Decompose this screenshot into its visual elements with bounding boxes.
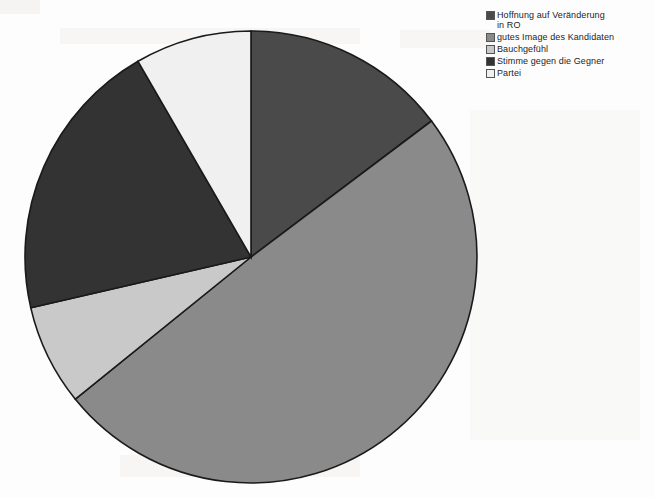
legend-swatch-partei xyxy=(486,69,495,78)
legend-swatch-hoffnung xyxy=(486,11,495,20)
legend-swatch-bauchgefuehl xyxy=(486,45,495,54)
legend-item-label: Hoffnung auf Veränderung in RO xyxy=(497,10,605,30)
legend-item-label: Stimme gegen die Gegner xyxy=(497,56,604,66)
pie-chart-svg xyxy=(23,29,479,485)
legend-item: gutes Image des Kandidaten xyxy=(486,32,652,42)
legend-item-label: gutes Image des Kandidaten xyxy=(497,32,614,42)
legend-swatch-image xyxy=(486,33,495,42)
pie-chart xyxy=(23,29,479,485)
chart-legend: Hoffnung auf Veränderung in ROgutes Imag… xyxy=(486,10,652,80)
legend-item-label: Bauchgefühl xyxy=(497,44,548,54)
scan-artifact xyxy=(470,110,640,440)
figure-canvas: Hoffnung auf Veränderung in ROgutes Imag… xyxy=(0,0,654,497)
legend-item-label: Partei xyxy=(497,68,521,78)
legend-item: Bauchgefühl xyxy=(486,44,652,54)
legend-item: Hoffnung auf Veränderung in RO xyxy=(486,10,652,30)
legend-item: Partei xyxy=(486,68,652,78)
caption-fragment xyxy=(0,0,430,12)
legend-swatch-stimme xyxy=(486,57,495,66)
legend-item: Stimme gegen die Gegner xyxy=(486,56,652,66)
pie-slice-group xyxy=(25,31,477,483)
